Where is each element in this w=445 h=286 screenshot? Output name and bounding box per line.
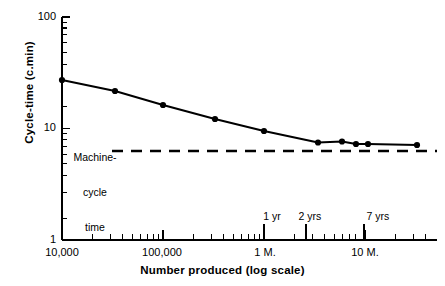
x-axis-ticks xyxy=(92,224,425,240)
data-point xyxy=(261,128,267,134)
y-axis-title: Cycle-time (c.min) xyxy=(23,12,36,172)
x-axis-title: Number produced (log scale) xyxy=(0,264,445,277)
data-point xyxy=(414,142,420,148)
data-point xyxy=(212,116,218,122)
chart-figure: 100 10 1 10,000 100,000 1 M. 10 M. 1 yr … xyxy=(0,0,445,286)
data-point xyxy=(365,141,371,147)
x-tick-label-10-million: 10 M. xyxy=(337,246,393,258)
machine-cycle-time-label: Machine- cycle time xyxy=(58,128,132,257)
data-point xyxy=(112,88,118,94)
y-tick-label-1: 1 xyxy=(22,233,56,245)
machine-cycle-time-label-line2: cycle xyxy=(58,187,132,199)
annotation-7-yrs: 7 yrs xyxy=(356,211,400,223)
data-point xyxy=(59,77,65,83)
x-tick-label-100000: 100,000 xyxy=(124,246,200,258)
data-point xyxy=(339,138,345,144)
data-point xyxy=(353,141,359,147)
machine-cycle-time-label-line1: Machine- xyxy=(58,152,132,164)
x-tick-label-1-million: 1 M. xyxy=(238,246,292,258)
annotation-2-yrs: 2 yrs xyxy=(288,211,332,223)
data-point xyxy=(160,102,166,108)
machine-cycle-time-label-line3: time xyxy=(58,222,132,234)
data-point xyxy=(315,139,321,145)
